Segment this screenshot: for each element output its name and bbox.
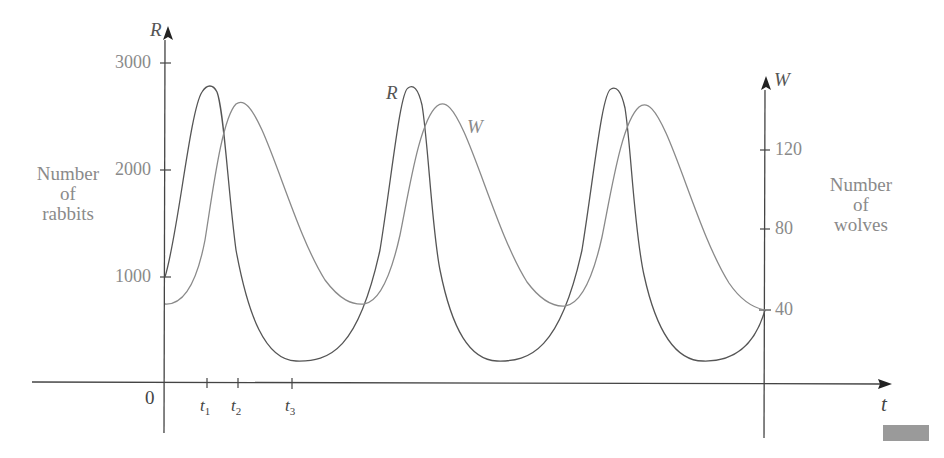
left-axis-title-line: Number <box>30 164 106 184</box>
w-tick-40: 40 <box>775 299 793 320</box>
left-axis-title-line: rabbits <box>30 204 106 224</box>
r-tick-3000: 3000 <box>115 52 151 73</box>
t1-label: t1 <box>200 396 210 417</box>
curve-label-w: W <box>467 117 483 137</box>
r-tick-1000: 1000 <box>115 266 151 287</box>
right-axis-title: Number of wolves <box>818 175 904 235</box>
curve-label-r: R <box>386 83 398 103</box>
right-axis-title-line: wolves <box>818 215 904 235</box>
r-axis-arrow-icon <box>163 26 173 40</box>
wolf-curve <box>165 102 765 310</box>
w-axis-label: W <box>774 70 790 90</box>
w-axis <box>764 90 765 438</box>
t3-label: t3 <box>285 396 295 417</box>
w-tick-80: 80 <box>775 218 793 239</box>
rabbit-curve <box>165 86 765 361</box>
t-axis-label: t <box>881 394 887 414</box>
right-axis-title-line: Number <box>818 175 904 195</box>
t2-label: t2 <box>231 396 241 417</box>
r-axis-label: R <box>150 20 162 40</box>
grey-marker-block <box>883 425 929 441</box>
w-tick-120: 120 <box>775 139 802 160</box>
left-axis-title: Number of rabbits <box>30 164 106 224</box>
t-axis-arrow-icon <box>878 379 892 389</box>
r-axis <box>164 40 165 433</box>
right-axis-title-line: of <box>818 195 904 215</box>
origin-label: 0 <box>145 388 155 408</box>
w-axis-arrow-icon <box>761 76 771 90</box>
left-axis-title-line: of <box>30 184 106 204</box>
t-axis <box>32 382 882 384</box>
r-tick-2000: 2000 <box>115 159 151 180</box>
